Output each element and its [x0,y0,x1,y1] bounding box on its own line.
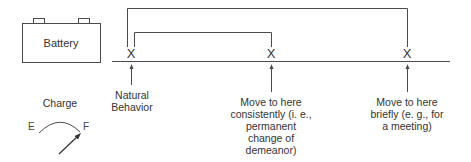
arrow-natural [130,64,134,85]
gauge-full-label: F [83,122,89,132]
arrow-brief [406,64,410,92]
marker-brief: X [400,47,414,60]
marker-natural: X [124,47,138,60]
gauge-title: Charge [35,97,85,109]
bracket-outer [128,9,408,48]
gauge-arc [39,122,80,133]
gauge-needle-icon [59,133,81,154]
label-natural-behavior: Natural Behavior [101,89,163,113]
gauge-empty-label: E [28,122,35,132]
arrow-consistent [270,64,274,92]
bracket-inner [135,33,272,48]
label-move-consistently: Move to here consistently (i. e., perman… [221,96,321,156]
marker-consistent: X [264,47,278,60]
label-move-briefly: Move to here briefly (e. g., for a meeti… [357,96,457,132]
battery-label: Battery [22,23,100,62]
